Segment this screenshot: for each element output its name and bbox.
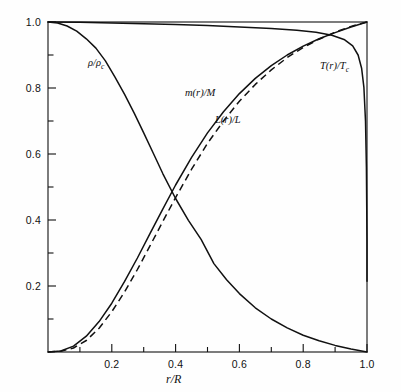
x-axis-ticks [80, 344, 367, 352]
y-tick-label-0.6: 0.6 [11, 148, 41, 160]
curve-label-density-text: ρ/ρ [88, 57, 101, 68]
curve-label-density-subscript: c [101, 62, 104, 71]
curve-label-temperature-subscript: c [346, 65, 349, 74]
curve-label-mass: m(r)/M [185, 87, 215, 98]
curve-label-luminosity: L(r)/L [215, 114, 241, 125]
figure-container: 1.0 0.8 0.6 0.4 0.2 0.2 0.4 0.6 0.8 1.0 … [0, 0, 401, 392]
y-tick-label-1.0: 1.0 [11, 16, 41, 28]
y-tick-label-0.4: 0.4 [11, 214, 41, 226]
y-tick-label-0.2: 0.2 [11, 280, 41, 292]
curve-label-temperature-text: T(r)/T [320, 60, 346, 71]
y-tick-label-0.8: 0.8 [11, 82, 41, 94]
x-tick-label-0.8: 0.8 [286, 358, 320, 370]
curve-label-density: ρ/ρc [88, 57, 104, 71]
curve-label-temperature: T(r)/Tc [320, 60, 349, 74]
x-tick-label-0.4: 0.4 [159, 358, 193, 370]
x-tick-label-0.2: 0.2 [95, 358, 129, 370]
x-tick-label-1.0: 1.0 [350, 358, 384, 370]
stellar-structure-plot [0, 0, 401, 392]
y-axis-ticks [48, 22, 56, 319]
x-tick-label-0.6: 0.6 [222, 358, 256, 370]
x-axis-title: r/R [166, 372, 181, 387]
